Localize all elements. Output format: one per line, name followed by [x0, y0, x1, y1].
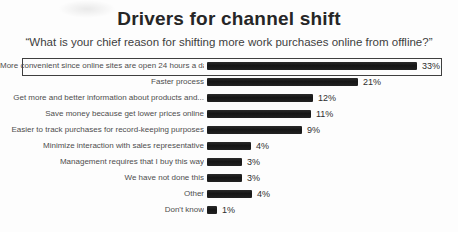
- chart-title: Drivers for channel shift: [0, 8, 458, 30]
- chart-row: Other4%: [0, 186, 458, 202]
- category-label: Get more and better information about pr…: [0, 90, 204, 106]
- category-label: Other: [0, 186, 204, 202]
- chart-row: Faster process21%: [0, 74, 458, 90]
- bar: [207, 78, 358, 86]
- chart-row: Management requires that I buy this way3…: [0, 154, 458, 170]
- bar: [207, 190, 252, 198]
- value-label: 11%: [316, 109, 333, 119]
- value-label: 4%: [257, 189, 270, 199]
- chart-row: Save money because get lower prices onli…: [0, 106, 458, 122]
- bar: [207, 110, 311, 118]
- category-label: More convenient since online sites are o…: [0, 58, 204, 74]
- category-label: We have not done this: [0, 170, 204, 186]
- value-label: 9%: [307, 125, 320, 135]
- chart-row: Minimize interaction with sales represen…: [0, 138, 458, 154]
- bar: [207, 174, 242, 182]
- chart-row: Easier to track purchases for record-kee…: [0, 122, 458, 138]
- category-label: Don't know: [0, 202, 204, 218]
- value-label: 3%: [247, 173, 260, 183]
- bar: [207, 158, 242, 166]
- chart-row: More convenient since online sites are o…: [0, 58, 458, 74]
- chart-rows: More convenient since online sites are o…: [0, 58, 458, 218]
- chart-subtitle: “What is your chief reason for shifting …: [0, 36, 458, 48]
- value-label: 4%: [256, 141, 269, 151]
- category-label: Faster process: [0, 74, 204, 90]
- category-label: Save money because get lower prices onli…: [0, 106, 204, 122]
- chart-row: Get more and better information about pr…: [0, 90, 458, 106]
- bar: [207, 206, 217, 214]
- value-label: 21%: [363, 77, 381, 87]
- value-label: 33%: [422, 61, 440, 71]
- value-label: 1%: [222, 205, 235, 215]
- category-label: Management requires that I buy this way: [0, 154, 204, 170]
- bar: [207, 62, 417, 70]
- chart-row: We have not done this3%: [0, 170, 458, 186]
- category-label: Minimize interaction with sales represen…: [0, 138, 204, 154]
- bar: [207, 94, 313, 102]
- value-label: 3%: [247, 157, 260, 167]
- bar: [207, 126, 302, 134]
- chart-page: Drivers for channel shift “What is your …: [0, 0, 458, 232]
- bar-chart: More convenient since online sites are o…: [0, 58, 458, 218]
- value-label: 12%: [318, 93, 336, 103]
- bar: [207, 142, 251, 150]
- chart-row: Don't know1%: [0, 202, 458, 218]
- category-label: Easier to track purchases for record-kee…: [0, 122, 204, 138]
